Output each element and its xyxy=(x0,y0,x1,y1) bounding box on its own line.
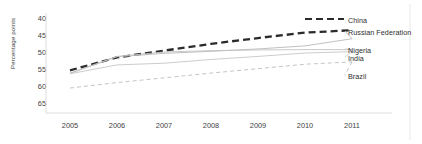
legend-label-brazil: Brazil xyxy=(348,72,366,81)
series-lines xyxy=(70,30,352,88)
legend-label-russian-federation: Russian Federation xyxy=(348,28,411,37)
series-line-india xyxy=(70,52,352,74)
legend-label-india: India xyxy=(348,54,364,63)
chart-figure: Percentage points 40 45 50 55 60 65 2005… xyxy=(0,0,422,144)
legend-label-china: China xyxy=(348,16,367,25)
